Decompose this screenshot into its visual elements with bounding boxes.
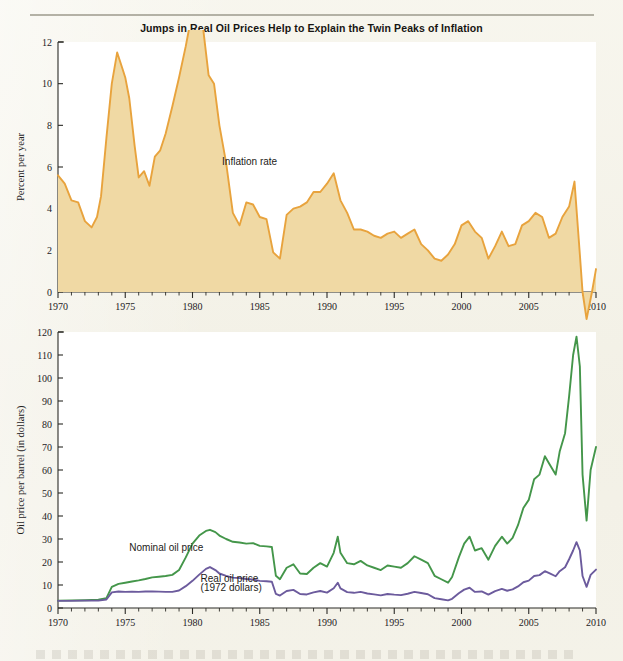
x-tick-label: 1970 <box>48 301 68 312</box>
x-tick-label: 2005 <box>519 301 539 312</box>
x-tick-label: 1985 <box>250 617 270 628</box>
y-tick-label: 10 <box>42 580 52 591</box>
figure-page: Jumps in Real Oil Prices Help to Explain… <box>0 0 623 661</box>
y-tick-label: 120 <box>37 327 52 338</box>
y-tick-label: 20 <box>42 557 52 568</box>
x-tick-label: 1970 <box>48 617 68 628</box>
y-tick-label: 60 <box>42 465 52 476</box>
y-tick-label: 8 <box>47 120 52 131</box>
x-tick-label: 2010 <box>586 617 606 628</box>
x-tick-label: 2000 <box>452 617 472 628</box>
x-tick-label: 1995 <box>384 617 404 628</box>
y-axis-title: Oil price per barrel (in dollars) <box>15 405 27 535</box>
series-annotation: Inflation rate <box>222 156 277 167</box>
x-tick-label: 1975 <box>115 301 135 312</box>
x-tick-label: 1990 <box>317 617 337 628</box>
y-tick-label: 110 <box>37 350 52 361</box>
series-annotation: Nominal oil price <box>129 542 203 553</box>
y-tick-label: 50 <box>42 488 52 499</box>
oil-price-chart: 0102030405060708090100110120197019751980… <box>0 322 623 652</box>
inflation-chart: 0246810121970197519801985199019952000200… <box>0 30 623 322</box>
y-tick-label: 40 <box>42 511 52 522</box>
x-tick-label: 1980 <box>183 301 203 312</box>
y-tick-label: 4 <box>47 203 52 214</box>
x-tick-label: 1980 <box>183 617 203 628</box>
series-annotation: (1972 dollars) <box>201 582 262 593</box>
y-tick-label: 12 <box>42 37 52 48</box>
y-tick-label: 2 <box>47 245 52 256</box>
y-tick-label: 6 <box>47 162 52 173</box>
x-tick-label: 2000 <box>452 301 472 312</box>
y-axis-title: Percent per year <box>15 132 26 201</box>
x-tick-label: 1975 <box>115 617 135 628</box>
y-tick-label: 10 <box>42 78 52 89</box>
y-tick-label: 30 <box>42 534 52 545</box>
x-tick-label: 1990 <box>317 301 337 312</box>
x-tick-label: 1985 <box>250 301 270 312</box>
x-tick-label: 1995 <box>384 301 404 312</box>
x-tick-label: 2005 <box>519 617 539 628</box>
y-tick-label: 100 <box>37 373 52 384</box>
y-tick-label: 90 <box>42 396 52 407</box>
y-tick-label: 0 <box>47 603 52 614</box>
y-tick-label: 70 <box>42 442 52 453</box>
y-tick-label: 80 <box>42 419 52 430</box>
top-rule <box>30 14 594 16</box>
y-tick-label: 0 <box>47 287 52 298</box>
footer-caption-smudge <box>36 650 576 659</box>
